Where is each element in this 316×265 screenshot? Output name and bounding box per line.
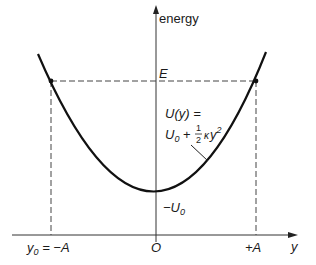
fraction-numerator: 1 (196, 123, 201, 133)
y-axis-arrow-icon (288, 232, 298, 238)
equation-line-1: U(y) = (165, 106, 201, 121)
left-turning-point (49, 79, 54, 84)
origin-label: O (151, 240, 161, 255)
potential-curve (38, 52, 266, 192)
y-axis-label: y (290, 239, 299, 254)
left-turning-label: y0 = −A (26, 240, 70, 257)
right-turning-point (254, 79, 259, 84)
fraction-denominator: 2 (196, 135, 201, 145)
equation-pointer (191, 145, 208, 161)
minimum-label: −U0 (163, 200, 185, 217)
energy-diagram: energy E U(y) = U0 + 1 2 κy2 −U0 y0 = −A… (0, 0, 316, 265)
equation-kappa-y2: κy2 (204, 125, 222, 142)
equation-line-2: U0 + (165, 127, 191, 144)
right-turning-label: +A (245, 240, 261, 255)
energy-axis-label: energy (159, 11, 199, 26)
energy-level-label: E (159, 66, 168, 81)
